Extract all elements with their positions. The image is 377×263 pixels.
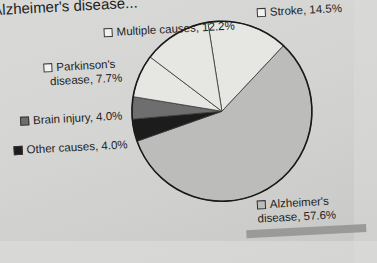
legend-swatch-parkinsons	[43, 63, 52, 72]
legend-swatch-brain	[20, 116, 29, 125]
label-parkinsons: Parkinson's disease, 7.7%	[43, 56, 123, 88]
label-alzheimers: Alzheimer's disease, 57.6%	[256, 193, 336, 225]
chart-page: Alzheimer's disease... Multiple causes, …	[0, 0, 377, 263]
legend-swatch-other	[13, 146, 22, 155]
legend-swatch-stroke	[257, 8, 266, 17]
legend-swatch-alzheimers	[257, 200, 266, 209]
pie-slices	[127, 17, 316, 206]
legend-swatch-multiple	[103, 28, 112, 37]
pie-chart	[0, 0, 377, 263]
